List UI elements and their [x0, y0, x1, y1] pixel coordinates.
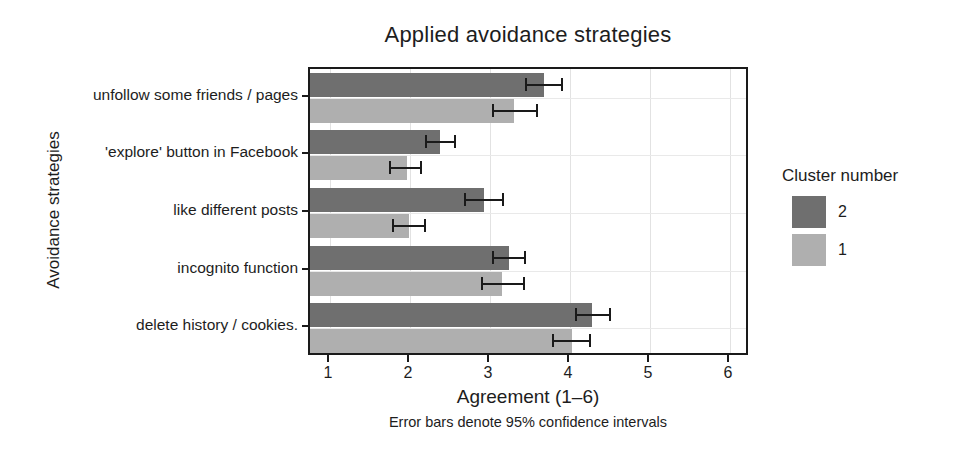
chart-figure: Applied avoidance strategies Avoidance s…	[0, 0, 962, 463]
error-bar	[492, 110, 537, 112]
error-bar	[425, 141, 454, 143]
bar	[310, 329, 572, 353]
y-axis-tick-label: like different posts	[38, 201, 298, 219]
error-bar-cap	[392, 219, 394, 232]
error-bar	[492, 257, 524, 259]
error-bar	[389, 167, 420, 169]
error-bar	[552, 340, 589, 342]
bar	[310, 303, 592, 327]
x-axis-tick-mark	[327, 355, 329, 362]
y-axis-tick-mark	[302, 325, 309, 327]
error-bar	[481, 283, 523, 285]
bar	[310, 272, 502, 296]
y-axis-tick-mark	[302, 95, 309, 97]
error-bar-cap	[492, 251, 494, 264]
error-bar-cap	[609, 308, 611, 321]
error-bar-cap	[389, 161, 391, 174]
bar	[310, 73, 544, 97]
x-axis-tick-label: 6	[713, 364, 743, 382]
bar	[310, 188, 484, 212]
y-axis-tick-label: unfollow some friends / pages	[38, 86, 298, 104]
x-axis-tick-label: 3	[473, 364, 503, 382]
error-bar	[525, 84, 561, 86]
legend-label: 2	[838, 203, 847, 221]
error-bar-cap	[481, 277, 483, 290]
bar	[310, 99, 514, 123]
chart-caption: Error bars denote 95% confidence interva…	[278, 414, 778, 430]
error-bar-cap	[523, 277, 525, 290]
error-bar-cap	[525, 78, 527, 91]
error-bar-cap	[454, 135, 456, 148]
legend-label: 1	[838, 241, 847, 259]
y-axis-tick-label: incognito function	[38, 259, 298, 277]
x-axis-tick-mark	[647, 355, 649, 362]
x-axis-title: Agreement (1–6)	[308, 386, 748, 408]
legend-swatch[interactable]	[792, 234, 826, 266]
x-axis-tick-label: 4	[553, 364, 583, 382]
x-axis-tick-label: 1	[313, 364, 343, 382]
y-axis-tick-mark	[302, 152, 309, 154]
y-axis-tick-mark	[302, 268, 309, 270]
error-bar-cap	[589, 334, 591, 347]
error-bar-cap	[464, 193, 466, 206]
error-bar-cap	[492, 104, 494, 117]
y-axis-tick-mark	[302, 210, 309, 212]
legend-title: Cluster number	[782, 166, 898, 186]
y-axis-tick-label: delete history / cookies.	[38, 316, 298, 334]
error-bar	[464, 199, 502, 201]
error-bar-cap	[425, 135, 427, 148]
bar	[310, 130, 440, 154]
plot-panel	[308, 67, 748, 355]
error-bar-cap	[420, 161, 422, 174]
error-bar-cap	[552, 334, 554, 347]
error-bar-cap	[536, 104, 538, 117]
error-bar-cap	[561, 78, 563, 91]
x-axis-tick-label: 2	[393, 364, 423, 382]
chart-title: Applied avoidance strategies	[308, 22, 748, 48]
error-bar-cap	[524, 251, 526, 264]
error-bar-cap	[575, 308, 577, 321]
error-bar-cap	[502, 193, 504, 206]
x-axis-tick-mark	[487, 355, 489, 362]
x-axis-tick-mark	[567, 355, 569, 362]
x-axis-tick-label: 5	[633, 364, 663, 382]
legend-swatch[interactable]	[792, 196, 826, 228]
error-bar-cap	[424, 219, 426, 232]
grid-line-vertical	[650, 69, 651, 353]
grid-line-vertical	[730, 69, 731, 353]
error-bar	[392, 225, 424, 227]
x-axis-tick-mark	[407, 355, 409, 362]
error-bar	[575, 314, 609, 316]
bar	[310, 246, 509, 270]
y-axis-tick-label: 'explore' button in Facebook	[38, 143, 298, 161]
x-axis-tick-mark	[727, 355, 729, 362]
